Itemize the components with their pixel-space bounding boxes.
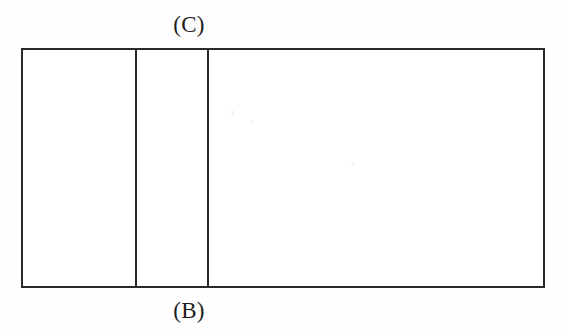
vertical-divider-2 xyxy=(207,48,209,288)
figure-root: (C) (B) xyxy=(0,0,568,336)
figure-label-b: (B) xyxy=(0,299,568,322)
middle-panel xyxy=(136,48,208,288)
left-panel xyxy=(21,48,136,288)
diagram-canvas xyxy=(21,48,545,288)
right-panel xyxy=(208,48,545,288)
vertical-divider-1 xyxy=(135,48,137,288)
figure-label-c: (C) xyxy=(0,13,568,36)
